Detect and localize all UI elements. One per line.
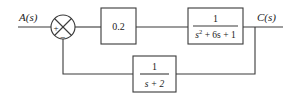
feedback-block: 1 s + 2 — [133, 56, 176, 92]
input-label: A(s) — [18, 11, 38, 24]
output-label: C(s) — [257, 11, 276, 24]
summing-junction: + − — [51, 15, 75, 43]
plus-sign: + — [54, 23, 59, 33]
plant-block: 1 s2 + 6s + 1 — [188, 8, 243, 44]
gain-value: 0.2 — [112, 21, 125, 32]
block-diagram: A(s) + − 0.2 1 s2 + 6s + 1 C(s) 1 s + 2 — [0, 0, 289, 99]
plant-denominator: s2 + 6s + 1 — [195, 28, 236, 40]
gain-block: 0.2 — [101, 8, 136, 44]
feedback-denominator: s + 2 — [145, 79, 165, 89]
feedback-numerator: 1 — [152, 61, 157, 72]
plant-numerator: 1 — [213, 13, 218, 24]
